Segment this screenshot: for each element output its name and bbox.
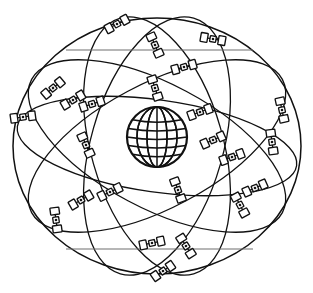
satellite-solar-panel-right [218, 36, 226, 46]
gps-constellation-figure [0, 0, 313, 293]
satellite-solar-panel-right [28, 111, 36, 121]
satellite-solar-panel-left [171, 64, 180, 75]
satellite-solar-panel-right [52, 225, 62, 233]
satellite-solar-panel-left [139, 240, 148, 250]
earth-globe [127, 107, 187, 167]
satellite-solar-panel-left [10, 113, 18, 123]
satellite-solar-panel-right [156, 236, 165, 246]
satellite-solar-panel-left [50, 207, 60, 215]
satellite-solar-panel-left [275, 97, 285, 106]
satellite-solar-panel-left [266, 129, 276, 137]
satellite-solar-panel-left [200, 32, 208, 42]
satellite-solar-panel-right [188, 59, 197, 70]
constellation-diagram [0, 0, 313, 293]
satellite-solar-panel-right [279, 114, 289, 123]
satellite-solar-panel-right [268, 147, 278, 155]
